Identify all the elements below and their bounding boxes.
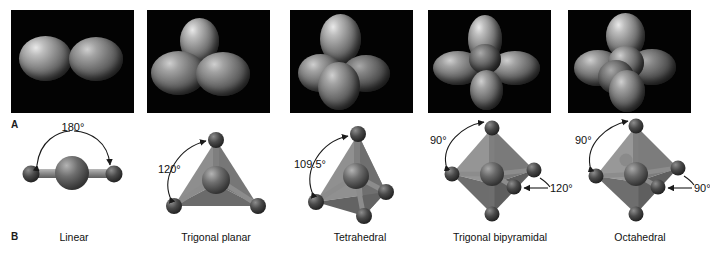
terminal-atom (485, 207, 500, 222)
central-atom (480, 162, 504, 186)
balloon-lobe (609, 70, 645, 112)
model-trigonal-bipyramidal: 90° 120° Trigonal bipyramidal (420, 118, 580, 236)
caption-tetrahedral: Tetrahedral (290, 231, 430, 243)
model-octahedral: 90° 90° Octahedral (570, 118, 710, 236)
terminal-atom (106, 166, 123, 183)
terminal-atom (629, 119, 644, 134)
caption-trigonal-planar: Trigonal planar (146, 231, 286, 243)
balloon-photo-octahedral (568, 10, 691, 113)
balloon-photo-trigonal-bipyramidal (428, 10, 551, 113)
terminal-atom (651, 180, 666, 195)
balloon-lobe (19, 36, 72, 81)
terminal-atom (208, 132, 224, 148)
terminal-atom (629, 207, 644, 222)
terminal-atom (308, 194, 324, 210)
balloon-lobe (196, 52, 250, 96)
model-linear: 180° Linear (4, 118, 144, 236)
terminal-atom (378, 184, 394, 200)
terminal-atom (527, 163, 542, 178)
terminal-atom (485, 121, 500, 136)
caption-trigonal-bipyramidal: Trigonal bipyramidal (420, 231, 580, 243)
central-atom (624, 162, 648, 186)
terminal-atom (589, 169, 604, 184)
terminal-atom (507, 180, 522, 195)
ball-stick-model-row: B (0, 118, 701, 263)
terminal-atom (350, 126, 366, 142)
angle-label-180: 180° (62, 121, 85, 133)
balloon-photo-tetrahedral (290, 10, 413, 113)
balloon-photo-trigonal-planar (147, 10, 270, 113)
central-atom (55, 156, 89, 190)
angle-label-120: 120° (158, 163, 181, 175)
angle-label-90: 90° (430, 134, 447, 146)
model-trigonal-planar: 120° Trigonal planar (146, 118, 286, 236)
balloon-lobe (470, 70, 503, 110)
caption-octahedral: Octahedral (570, 231, 710, 243)
central-atom (343, 163, 369, 189)
terminal-atom (445, 167, 460, 182)
terminal-atom (671, 161, 686, 176)
terminal-atom (23, 166, 40, 183)
balloon-lobe (69, 37, 123, 81)
balloon-lobe (318, 62, 360, 110)
caption-linear: Linear (4, 231, 144, 243)
model-tetrahedral: 109.5° Tetrahedral (290, 118, 430, 236)
terminal-atom (166, 198, 182, 214)
angle-label-109-5: 109.5° (294, 158, 326, 170)
terminal-atom (356, 208, 372, 224)
central-atom (202, 166, 230, 194)
angle-label-90-equatorial: 90° (694, 182, 710, 194)
balloon-photo-row: A (0, 0, 701, 118)
angle-leader-line (540, 178, 550, 187)
angle-leader-line (684, 176, 694, 185)
terminal-atom (250, 198, 266, 214)
angle-label-90-axial: 90° (575, 134, 592, 146)
balloon-photo-linear (11, 10, 134, 113)
